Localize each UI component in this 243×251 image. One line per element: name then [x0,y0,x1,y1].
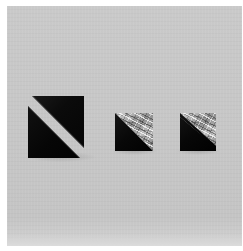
black-and-foil-square-medium-form [115,113,153,151]
panel-bottom-edge [7,234,242,246]
artwork-photograph: Three dark triangular forms on a pale gr… [0,0,243,251]
split-black-square-form [29,97,91,158]
image-caption: Three dark triangular forms on a pale gr… [0,16,1,17]
black-and-foil-square-right-form [180,113,216,151]
